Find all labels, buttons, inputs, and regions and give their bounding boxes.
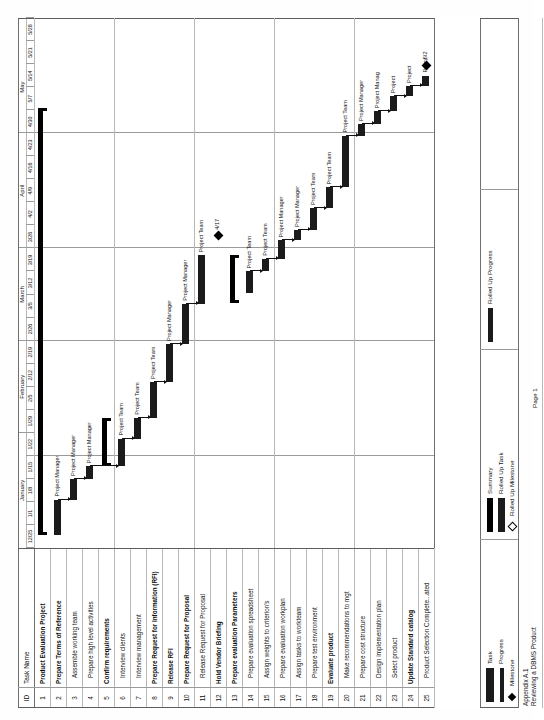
appendix-caption: Appendix A.1 Reviewing a DBMS Product: [522, 627, 538, 706]
task-name-cell: Select product: [386, 542, 402, 687]
table-row[interactable]: 8Prepare Request for Information (RFI): [146, 548, 162, 708]
gridline-v: [480, 539, 518, 540]
gridline-v: [26, 109, 34, 110]
table-row[interactable]: 20Make recommendations to mgt: [338, 548, 354, 708]
timeline-week-label: 2/5: [26, 387, 34, 410]
timeline-week-label: 2/26: [26, 318, 34, 341]
task-bar[interactable]: [86, 466, 93, 479]
task-bar[interactable]: [54, 500, 61, 536]
task-bar[interactable]: [182, 304, 189, 344]
table-row[interactable]: 4Prepare high level activities: [82, 548, 98, 708]
task-bar[interactable]: [406, 86, 413, 96]
table-row[interactable]: 22Design implementation plan: [370, 548, 386, 708]
table-row[interactable]: 24Update Standard catalog: [402, 548, 418, 708]
summary-bar[interactable]: [38, 108, 43, 535]
task-bar[interactable]: [310, 208, 317, 230]
task-name-cell: Assign tasks to workteam: [290, 542, 306, 687]
gridline-v: [26, 224, 34, 225]
task-bar[interactable]: [262, 259, 269, 272]
table-row[interactable]: 25Product Selection Complete...ated: [418, 548, 434, 708]
task-id-cell: 12: [210, 688, 226, 708]
dependency-arrow: [180, 342, 183, 346]
table-row[interactable]: 23Select product: [386, 548, 402, 708]
table-row[interactable]: 21Prepare cost structure: [354, 548, 370, 708]
task-bar[interactable]: [70, 479, 77, 500]
table-row[interactable]: 15Assign weights to criterion's: [258, 548, 274, 708]
legend-group: SummaryRolled Up TaskRolled Up Milestone: [480, 348, 518, 538]
gridline-v: [26, 247, 34, 248]
task-bar[interactable]: [422, 76, 429, 86]
task-bar[interactable]: [326, 187, 333, 208]
table-row[interactable]: 1Product Evaluation Project: [34, 548, 50, 708]
table-row[interactable]: 17Assign tasks to workteam: [290, 548, 306, 708]
gridline-h: [242, 548, 243, 708]
timeline-month-label: April: [18, 133, 26, 248]
task-bar[interactable]: [246, 271, 253, 293]
gridline-v: [18, 132, 26, 133]
timeline-area: JanuaryFebruaryMarchAprilMay 12/251/11/8…: [18, 18, 470, 548]
table-row[interactable]: 12Hold Vendor Briefing: [210, 548, 226, 708]
summary-bar[interactable]: [102, 418, 107, 466]
task-id-cell: 8: [146, 688, 162, 708]
task-bar[interactable]: [342, 136, 349, 188]
task-name-cell: Prepare cost structure: [354, 542, 370, 687]
resource-label: Project Team: [150, 347, 156, 380]
task-bar[interactable]: [166, 344, 173, 382]
timeline-week-label: 2/19: [26, 341, 34, 364]
table-row[interactable]: 18Prepare test environment: [306, 548, 322, 708]
task-id-cell: 5: [98, 688, 114, 708]
resource-label: Project Team: [326, 152, 332, 185]
table-row[interactable]: 6Interview clients: [114, 548, 130, 708]
gridline-h: [354, 18, 355, 548]
task-bar[interactable]: [358, 124, 365, 136]
gridline-v: [18, 687, 434, 688]
table-row[interactable]: 3Assemble working team: [66, 548, 82, 708]
task-name-cell: Release Request for Proposal: [194, 542, 210, 687]
table-row[interactable]: 14Prepare evaluation spreadsheet: [242, 548, 258, 708]
task-bar[interactable]: [198, 255, 205, 303]
table-row[interactable]: 2Prepare Terms of Reference: [50, 548, 66, 708]
gridline-h: [130, 548, 131, 708]
resource-label: Project Manager: [166, 300, 172, 341]
gridline-v: [480, 189, 518, 190]
appendix-line-1: Appendix A.1: [522, 627, 530, 706]
table-row[interactable]: 19Evaluate product: [322, 548, 338, 708]
resource-label: Project Manager: [278, 196, 284, 237]
table-row[interactable]: 7Interview management: [130, 548, 146, 708]
table-row[interactable]: 5Confirm requirements: [98, 548, 114, 708]
gridline-v: [26, 294, 34, 295]
task-bar[interactable]: [294, 230, 301, 240]
timeline-week-label: 4/9: [26, 179, 34, 202]
table-row[interactable]: 13Prepare evaluation Parameters: [226, 548, 242, 708]
resource-label: Project Manag: [374, 72, 380, 108]
legend-swatch-task: [486, 668, 494, 702]
gridline-v: [34, 455, 434, 456]
task-name-cell: Release RFI: [162, 548, 178, 687]
appendix-line-2: Reviewing a DBMS Product: [530, 627, 538, 706]
dependency-arrow: [68, 497, 71, 501]
gridline-v: [26, 501, 34, 502]
table-row[interactable]: 9Release RFI: [162, 548, 178, 708]
task-bar[interactable]: [374, 111, 381, 124]
table-row[interactable]: 10Prepare Request for Proposal: [178, 548, 194, 708]
dependency-arrow: [260, 269, 263, 273]
task-bar[interactable]: [390, 96, 397, 111]
dependency-arrow: [324, 206, 327, 210]
gridline-v: [26, 86, 34, 87]
gridline-h: [434, 548, 435, 708]
task-bar[interactable]: [278, 240, 285, 258]
task-id-cell: 14: [242, 688, 258, 708]
table-row[interactable]: 16Prepare evaluation workplan: [274, 548, 290, 708]
gridline-h: [542, 18, 543, 708]
task-bar[interactable]: [150, 382, 157, 418]
summary-bar[interactable]: [230, 255, 235, 302]
task-name-cell: Hold Vendor Briefing: [210, 548, 226, 687]
task-bar[interactable]: [134, 418, 141, 439]
task-name-cell: Prepare evaluation Parameters: [226, 548, 242, 687]
task-bar[interactable]: [118, 439, 125, 467]
milestone-marker[interactable]: [213, 231, 223, 241]
table-row[interactable]: 11Release Request for Proposal: [194, 548, 210, 708]
summary-bar-cap: [230, 255, 239, 258]
legend-item: Summary: [484, 468, 495, 532]
